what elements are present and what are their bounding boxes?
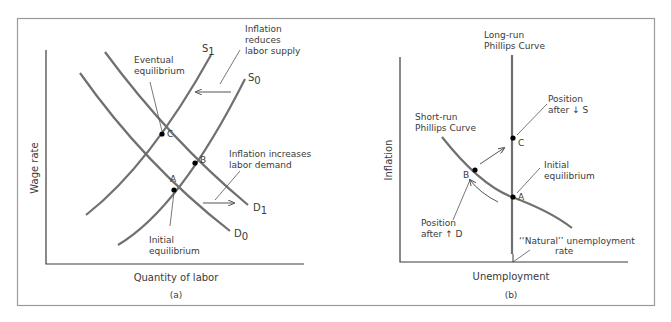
panel-b-caption: (b): [505, 290, 518, 300]
point-b-label: B: [200, 155, 206, 165]
point-c-label: C: [167, 129, 173, 139]
panel-b-xlabel: Unemployment: [473, 271, 550, 282]
point-b: [472, 167, 477, 172]
initial-annotation: Initial equilibrium: [149, 235, 200, 256]
supply-shift-annotation: Inflation reduces labor supply: [245, 24, 301, 56]
initial-annotation: Initial equilibrium: [544, 160, 595, 181]
supply-leader: [220, 50, 240, 84]
panel-a-xlabel: Quantity of labor: [134, 272, 220, 283]
panel-a-caption: (a): [170, 290, 183, 300]
panel-a: Wage rate Quantity of labor (a) S1 S0 D1…: [29, 24, 314, 300]
curve-short-run-phillips: [442, 137, 572, 228]
point-c: [510, 135, 515, 140]
point-a: [171, 187, 176, 192]
curve-d0: [80, 73, 230, 231]
after-s-annotation: Position after ↓ S: [548, 94, 589, 115]
svg-text:S1: S1: [202, 43, 215, 57]
curve-s1: [86, 55, 211, 215]
natural-leader: [513, 250, 530, 262]
b-to-c-arrow: [480, 148, 504, 164]
svg-text:D0: D0: [234, 228, 248, 242]
initial-leader: [517, 168, 540, 193]
point-b: [192, 160, 197, 165]
eventual-leader: [150, 82, 162, 131]
after-d-annotation: Position after ↑ D: [421, 218, 463, 239]
point-c-label: C: [518, 138, 524, 148]
demand-shift-annotation: Inflation increases labor demand: [229, 149, 314, 170]
panel-a-ylabel: Wage rate: [29, 142, 40, 193]
point-a-label: A: [170, 174, 177, 184]
a-to-b-arrow: [470, 180, 498, 202]
point-c: [159, 131, 164, 136]
figure: Wage rate Quantity of labor (a) S1 S0 D1…: [0, 0, 671, 322]
point-b-label: B: [463, 170, 469, 180]
svg-text:S0: S0: [248, 72, 261, 86]
after-s-leader: [517, 104, 547, 135]
after-d-leader: [453, 180, 470, 220]
panel-b: Inflation Unemployment (b) A B C Long-ru…: [383, 30, 638, 300]
svg-text:D1: D1: [253, 202, 267, 216]
point-a-label: A: [518, 192, 525, 202]
panel-b-ylabel: Inflation: [383, 140, 394, 181]
short-run-label: Short-run Phillips Curve: [415, 112, 476, 133]
point-a: [510, 194, 515, 199]
eventual-annotation: Eventual equilibrium: [134, 55, 185, 76]
long-run-label: Long-run Phillips Curve: [484, 30, 545, 51]
natural-annotation: ‘‘Natural’’ unemployment rate: [519, 236, 638, 256]
